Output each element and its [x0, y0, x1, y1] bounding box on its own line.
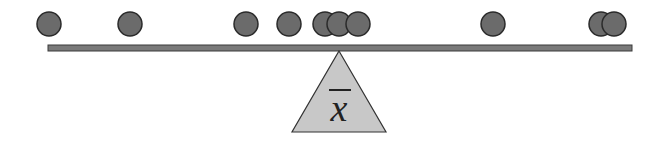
mean-symbol-label: x — [330, 87, 348, 129]
data-point-ball — [481, 12, 505, 36]
data-points — [37, 12, 626, 36]
seesaw-illustration: x — [0, 0, 660, 148]
data-point-ball — [234, 12, 258, 36]
data-point-ball — [37, 12, 61, 36]
balance-diagram: x — [0, 0, 660, 148]
data-point-ball — [277, 12, 301, 36]
data-point-ball — [118, 12, 142, 36]
data-point-ball — [602, 12, 626, 36]
beam — [48, 45, 632, 51]
data-point-ball — [346, 12, 370, 36]
